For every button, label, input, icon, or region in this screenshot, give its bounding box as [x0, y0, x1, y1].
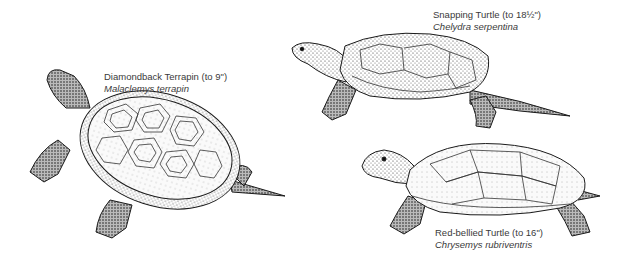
turtle-illustrations	[0, 0, 628, 262]
scientific-name: Malaclemys terrapin	[104, 83, 227, 95]
common-name: Snapping Turtle (to 18½")	[433, 9, 541, 21]
scientific-name: Chelydra serpentina	[433, 21, 541, 33]
red-bellied-turtle-label: Red-bellied Turtle (to 16") Chrysemys ru…	[435, 227, 543, 251]
scientific-name: Chrysemys rubriventris	[435, 239, 543, 251]
red-bellied-turtle-drawing	[362, 144, 600, 236]
common-name: Diamondback Terrapin (to 9")	[104, 71, 227, 83]
diamondback-terrapin-label: Diamondback Terrapin (to 9") Malaclemys …	[104, 71, 227, 95]
common-name: Red-bellied Turtle (to 16")	[435, 227, 543, 239]
snapping-turtle-drawing	[292, 33, 570, 128]
snapping-turtle-label: Snapping Turtle (to 18½") Chelydra serpe…	[433, 9, 541, 33]
